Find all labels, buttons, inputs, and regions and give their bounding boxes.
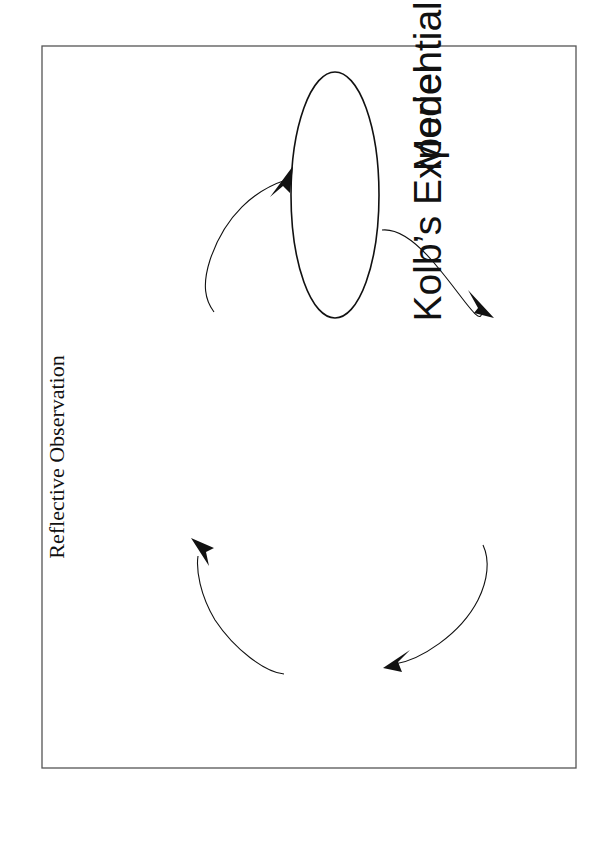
slide-title-line2: Model [406,65,449,171]
arrow-concrete-to-reflective [205,180,286,312]
arrowhead-icon [191,538,214,566]
arrow-abstract-to-active [395,545,487,664]
slide-frame [42,46,576,768]
node-reflective-observation: Reflective Observation [44,72,379,559]
arrow-active-to-concrete [198,556,284,674]
reflective-observation-label: Reflective Observation [44,355,69,558]
arrowhead-icon [468,290,494,318]
arrowhead-icon [270,166,293,197]
slide-page: Kolb’s Experiential Learning Model Refle… [0,0,610,849]
reflective-observation-ellipse [291,72,379,318]
